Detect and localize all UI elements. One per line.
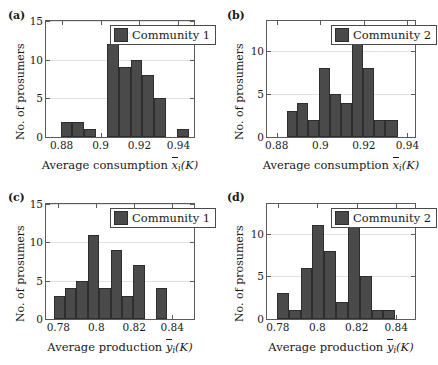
x-tick-label: 0.9 (92, 139, 109, 151)
y-tick-label: 0 (257, 313, 264, 325)
y-axis-label-d: No. of prosumers (233, 225, 246, 322)
histogram-bar (289, 310, 301, 319)
histogram-bar (277, 293, 289, 319)
histogram-bar (119, 67, 131, 137)
histogram-bar (372, 310, 384, 319)
histogram-bar (54, 296, 65, 319)
x-axis-label-b: Average consumption xi(K) (248, 158, 434, 173)
y-tick-mark (267, 319, 271, 320)
legend-swatch-icon (335, 211, 349, 225)
y-tick-label: 15 (30, 198, 43, 210)
y-tick-mark (190, 319, 194, 320)
histogram-bar (336, 302, 348, 319)
y-tick-label: 15 (30, 15, 43, 27)
histogram-bar (287, 111, 298, 137)
x-tick-label: 0.78 (47, 321, 70, 333)
x-tick-label: 0.88 (50, 139, 73, 151)
y-tick-label: 5 (257, 270, 264, 282)
histogram-bar (319, 68, 330, 137)
legend-label-d: Community 2 (353, 211, 431, 225)
panel-a: (a) No. of prosumers 0510150.880.90.920.… (0, 0, 219, 183)
y-tick-mark (46, 319, 50, 320)
x-axis-symbol-a: x (172, 158, 179, 172)
y-axis-label-a: No. of prosumers (14, 43, 27, 140)
histogram-bar (76, 281, 87, 319)
x-axis-symbol-c: y (166, 340, 173, 354)
panel-label-d: (d) (227, 191, 245, 204)
x-axis-label-d: Average production yi(K) (248, 340, 434, 355)
histogram-bar (383, 310, 395, 319)
legend-swatch-icon (335, 28, 349, 42)
histogram-bar (308, 120, 319, 137)
figure-panel-grid: (a) No. of prosumers 0510150.880.90.920.… (0, 0, 438, 365)
histogram-bar (297, 103, 308, 137)
y-tick-label: 10 (251, 228, 264, 240)
histogram-bar (154, 98, 166, 137)
histogram-bar (111, 250, 122, 319)
x-axis-arg-d: (K) (396, 340, 414, 354)
histogram-bar (363, 68, 374, 137)
histogram-bar (88, 235, 99, 319)
histogram-bar (177, 129, 189, 137)
y-tick-label: 0 (36, 131, 43, 143)
histogram-bar (133, 265, 144, 319)
x-axis-symbol-b: x (393, 158, 400, 172)
x-tick-label: 0.9 (312, 139, 329, 151)
histogram-bar (301, 268, 313, 319)
y-tick-mark (411, 319, 415, 320)
legend-label-a: Community 1 (132, 28, 210, 42)
histogram-bar (61, 122, 73, 137)
panel-label-a: (a) (8, 9, 25, 22)
y-tick-label: 0 (257, 131, 264, 143)
x-tick-label: 0.8 (88, 321, 105, 333)
panel-label-b: (b) (227, 9, 245, 22)
histogram-bar (131, 60, 143, 137)
y-tick-mark (411, 137, 415, 138)
x-tick-label: 0.88 (265, 139, 288, 151)
x-tick-label: 0.94 (396, 139, 419, 151)
y-tick-label: 5 (36, 275, 43, 287)
histogram-bar (156, 288, 167, 319)
x-axis-arg-b: (K) (402, 158, 420, 172)
legend-label-b: Community 2 (353, 28, 431, 42)
histogram-bar (84, 129, 96, 137)
histogram-bar (348, 225, 360, 319)
histogram-bar (107, 44, 119, 137)
x-tick-label: 0.84 (385, 321, 408, 333)
legend-c[interactable]: Community 1 (110, 208, 216, 228)
panel-c: (c) No. of prosumers 0510150.780.80.820.… (0, 183, 219, 365)
histogram-bar (99, 288, 110, 319)
x-tick-label: 0.8 (309, 321, 326, 333)
x-tick-label: 0.92 (128, 139, 151, 151)
histogram-bar (360, 276, 372, 319)
y-axis-label-c: No. of prosumers (14, 225, 27, 322)
y-tick-mark (267, 137, 271, 138)
x-axis-arg-a: (K) (181, 158, 199, 172)
legend-d[interactable]: Community 2 (331, 208, 437, 228)
y-tick-label: 10 (30, 54, 43, 66)
panel-d: (d) No. of prosumers 05100.780.80.820.84… (219, 183, 438, 365)
legend-label-c: Community 1 (132, 211, 210, 225)
legend-swatch-icon (114, 211, 128, 225)
y-axis-label-b: No. of prosumers (233, 43, 246, 140)
y-tick-label: 0 (36, 313, 43, 325)
legend-swatch-icon (114, 28, 128, 42)
histogram-bar (341, 103, 352, 137)
panel-b: (b) No. of prosumers 05100.880.90.920.94… (219, 0, 438, 183)
x-tick-label: 0.84 (160, 321, 183, 333)
legend-b[interactable]: Community 2 (331, 25, 437, 45)
x-tick-label: 0.94 (167, 139, 190, 151)
y-tick-label: 5 (257, 88, 264, 100)
x-axis-arg-c: (K) (175, 340, 193, 354)
x-tick-label: 0.92 (352, 139, 375, 151)
histogram-bar (142, 75, 154, 137)
histogram-bar (65, 288, 76, 319)
histogram-bar (312, 225, 324, 319)
y-tick-mark (190, 137, 194, 138)
histogram-bar (72, 122, 84, 137)
histogram-bar (324, 251, 336, 319)
legend-a[interactable]: Community 1 (110, 25, 216, 45)
histogram-bar (385, 120, 398, 137)
y-tick-label: 10 (251, 45, 264, 57)
y-tick-label: 5 (36, 92, 43, 104)
